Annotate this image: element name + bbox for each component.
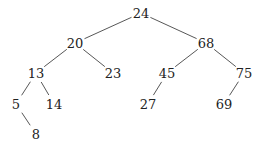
tree-node-27: 27 — [140, 97, 157, 112]
tree-node-69: 69 — [216, 97, 233, 112]
tree-node-13: 13 — [28, 66, 45, 81]
tree-nodes: 2420681323457551427698 — [12, 6, 252, 142]
tree-node-23: 23 — [105, 66, 122, 81]
tree-node-24: 24 — [133, 6, 150, 21]
tree-diagram: 2420681323457551427698 — [0, 0, 260, 149]
tree-edge — [150, 17, 196, 38]
tree-node-14: 14 — [46, 97, 63, 112]
tree-edge — [85, 17, 132, 38]
tree-edge — [214, 49, 236, 66]
tree-edge — [22, 113, 30, 126]
tree-edge — [44, 49, 67, 66]
tree-node-8: 8 — [32, 127, 40, 142]
tree-edge — [41, 82, 49, 95]
tree-node-68: 68 — [198, 36, 215, 51]
tree-edge — [83, 49, 105, 66]
tree-edge — [22, 82, 31, 96]
tree-node-45: 45 — [159, 66, 176, 81]
tree-node-5: 5 — [12, 97, 20, 112]
tree-edge — [230, 82, 239, 96]
tree-edge — [175, 49, 198, 66]
tree-node-75: 75 — [236, 66, 253, 81]
tree-edge — [153, 82, 161, 95]
tree-node-20: 20 — [67, 36, 84, 51]
